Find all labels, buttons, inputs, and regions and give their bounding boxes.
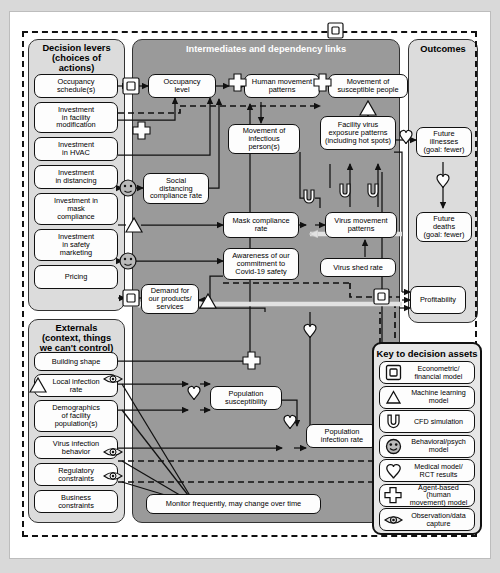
legend-item-econometric[interactable]: Econometric/financial model [379,361,475,384]
legend-label: CFD simulation [406,418,474,426]
node-investment-mask-compliance[interactable]: Investment inmaskcompliance [34,193,118,225]
node-mask-compliance-rate[interactable]: Mask compliancerate [223,212,299,238]
legend-item-cfd[interactable]: CFD simulation [379,410,475,433]
node-pricing[interactable]: Pricing [34,265,118,289]
observation-icon [380,513,406,527]
node-demographics-facility-population[interactable]: Demographicsof facilitypopulation(s) [34,400,118,432]
node-local-infection-rate[interactable]: Local infectionrate [34,374,118,397]
node-occupancy-level[interactable]: Occupancylevel [148,74,216,98]
legend-item-medical[interactable]: Medical model/RCT results [379,459,475,482]
legend-item-behavioral[interactable]: Behavioral/psychmodel [379,435,475,458]
behavioral-icon [380,438,406,455]
node-awareness-covid-commitment[interactable]: Awareness of ourcommitment toCovid-19 sa… [223,248,299,280]
agent-based-icon [380,486,406,504]
legend-label: Econometric/financial model [406,365,474,380]
econometric-icon [380,364,406,381]
legend-label: Behavioral/psychmodel [406,438,474,453]
note-monitor-frequently: Monitor frequently, may change over time [146,494,321,514]
node-investment-distancing[interactable]: Investmentin distancing [34,165,118,189]
node-human-movement-patterns[interactable]: Human movementpatterns [244,74,320,98]
machine-learning-icon [380,389,406,406]
legend-item-machine-learning[interactable]: Machine learningmodel [379,386,475,409]
node-building-shape[interactable]: Building shape [34,352,118,371]
node-social-distancing-compliance-rate[interactable]: Socialdistancingcompliance rate [143,173,209,204]
node-business-constraints[interactable]: Businessconstraints [34,490,118,513]
legend-title: Key to decision assets [374,348,480,359]
medical-icon [380,462,406,479]
node-virus-infection-behavior[interactable]: Virus infectionbehavior [34,436,118,459]
node-virus-movement-patterns[interactable]: Virus movementpatterns [325,212,397,238]
legend-label: Machine learningmodel [406,389,474,404]
node-future-deaths[interactable]: Futuredeaths(goal: fewer) [416,212,472,242]
legend-label: Agent-based (humanmovement) model [406,484,474,507]
legend-label: Observation/datacapture [406,512,474,527]
node-occupancy-schedule[interactable]: Occupancyschedule(s) [34,74,118,98]
node-movement-susceptible-people[interactable]: Movement ofsusceptible people [328,74,408,98]
legend-item-agent-based[interactable]: Agent-based (humanmovement) model [379,484,475,507]
node-investment-safety-marketing[interactable]: Investmentin safetymarketing [34,229,118,261]
node-future-illnesses[interactable]: Futureillnesses(goal: fewer) [416,127,472,157]
cfd-icon [380,413,406,430]
diagram-page: Decision levers(choices ofactions) Inter… [0,0,500,573]
node-profitability[interactable]: Profitability [410,286,466,314]
legend-item-observation[interactable]: Observation/datacapture [379,508,475,531]
node-demand-products-services[interactable]: Demand forour products/services [141,284,199,314]
node-investment-hvac[interactable]: Investmentin HVAC [34,137,118,161]
node-population-infection-rate[interactable]: Populationinfection rate [306,424,378,448]
node-investment-facility-modification[interactable]: Investmentin facilitymodification [34,102,118,133]
legend-panel: Key to decision assets Econometric/finan… [372,342,482,535]
node-movement-infectious-persons[interactable]: Movement ofinfectiousperson(s) [228,124,300,154]
diagram-canvas: Decision levers(choices ofactions) Inter… [10,12,490,558]
node-facility-virus-exposure-patterns[interactable]: Facility virusexposure patterns(includin… [320,116,396,150]
node-virus-shed-rate[interactable]: Virus shed rate [320,258,396,277]
legend-label: Medical model/RCT results [406,463,474,478]
node-population-susceptibility[interactable]: Populationsusceptibility [210,386,282,410]
node-regulatory-constraints[interactable]: Regulatoryconstraints [34,463,118,486]
